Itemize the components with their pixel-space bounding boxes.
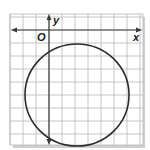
origin-label: O [37,31,46,43]
x-axis-label: x [132,31,140,43]
y-axis-label: y [52,14,60,26]
paper-background [10,14,143,145]
coordinate-plane-figure: y x O [0,0,150,150]
graph-canvas: y x O [0,0,150,150]
